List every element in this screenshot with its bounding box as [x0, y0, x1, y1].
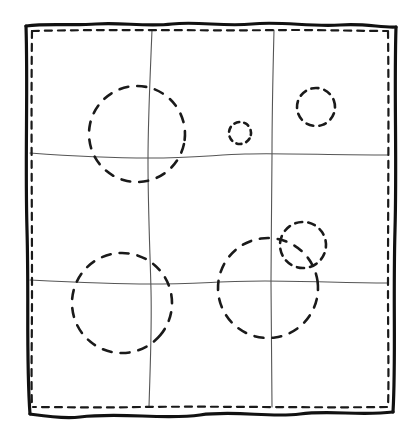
sketch-canvas-root: Hand-sketched 3 by 3 grid inside a wobbl… — [0, 0, 416, 436]
canvas-background — [0, 0, 416, 436]
hand-drawn-diagram — [0, 0, 416, 436]
